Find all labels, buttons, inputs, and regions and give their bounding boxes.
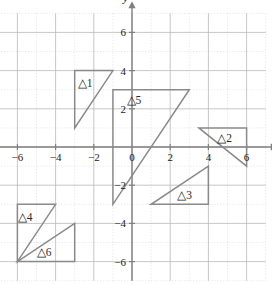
triangle-label-6: △6 [37, 246, 52, 258]
x-tick-label: −2 [88, 151, 100, 163]
triangle-label-1: △1 [78, 77, 93, 89]
y-tick-label: −6 [114, 256, 126, 268]
triangle-label-2: △2 [217, 132, 232, 144]
triangle-label-3: △3 [177, 189, 192, 201]
coordinate-plot-svg: −6−4−20246642−2−4−6 △1△2△3△4△5△6 xy [0, 0, 272, 285]
x-tick-label: −4 [50, 151, 62, 163]
y-tick-label: 4 [121, 65, 127, 77]
x-tick-label: 2 [167, 151, 173, 163]
y-axis-name-label: y [122, 0, 128, 4]
coordinate-plane-figure: −6−4−20246642−2−4−6 △1△2△3△4△5△6 xy [0, 0, 272, 285]
x-tick-label: 6 [244, 151, 250, 163]
axis-name-labels: xy [122, 0, 272, 144]
y-tick-label: 2 [121, 103, 127, 115]
x-axis-arrowhead [271, 143, 272, 150]
x-tick-label: −6 [12, 151, 24, 163]
triangle-label-4: △4 [18, 211, 33, 223]
x-tick-label: 0 [129, 151, 135, 163]
y-tick-label: −4 [114, 217, 126, 229]
y-tick-label: −2 [114, 179, 126, 191]
y-tick-label: 6 [121, 26, 127, 38]
y-axis-arrowhead [128, 1, 135, 8]
triangle-label-5: △5 [127, 94, 142, 106]
x-tick-label: 4 [206, 151, 212, 163]
